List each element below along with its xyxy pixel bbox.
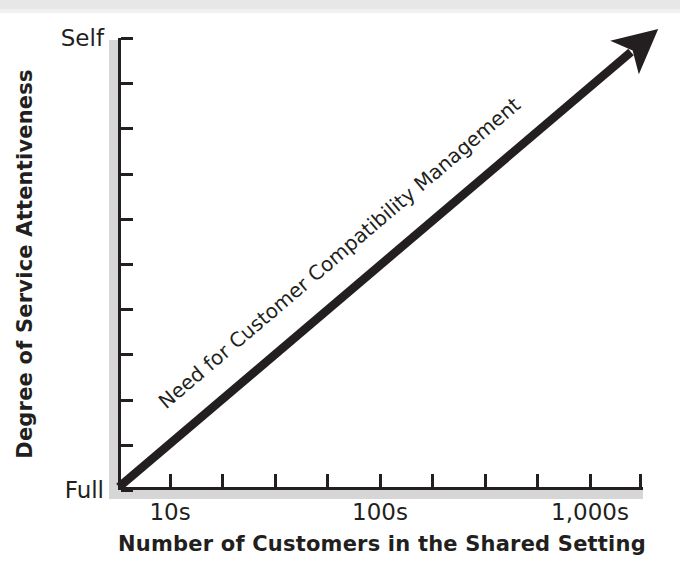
y-axis-tick (121, 353, 133, 356)
scan-artifact-band (0, 0, 680, 9)
x-axis-tick (169, 474, 172, 487)
y-axis-tick-label: Full (65, 479, 104, 502)
x-axis-tick-label: 100s (352, 501, 408, 524)
x-axis-tick (379, 474, 382, 487)
x-axis-line (118, 487, 643, 490)
y-axis-tick (121, 218, 133, 221)
x-axis-tick (536, 474, 539, 487)
chart-figure: Degree of Service Attentiveness Number o… (0, 0, 680, 585)
y-axis-tick (121, 127, 133, 130)
x-axis-tick (639, 474, 642, 487)
x-axis-tick (221, 474, 224, 487)
x-axis-shadow (109, 490, 643, 499)
y-axis-title: Degree of Service Attentiveness (6, 38, 44, 490)
x-axis-tick (274, 474, 277, 487)
y-axis-tick (121, 263, 133, 266)
plot-area: SelfFull 10s100s1,000s (118, 38, 645, 490)
x-axis-tick (589, 474, 592, 487)
x-axis-tick (431, 474, 434, 487)
x-axis-tick-label: 1,000s (551, 501, 629, 524)
y-axis-tick (121, 399, 133, 402)
y-axis-tick (121, 444, 133, 447)
y-axis-tick (121, 37, 133, 40)
y-axis-tick-label: Self (61, 27, 104, 50)
y-axis-shadow (109, 40, 118, 496)
y-axis-tick (121, 308, 133, 311)
x-axis-tick (484, 474, 487, 487)
x-axis-tick-label: 10s (149, 501, 190, 524)
scan-artifact-band-secondary (0, 9, 680, 13)
y-axis-tick (121, 82, 133, 85)
y-axis-tick (121, 489, 133, 492)
y-axis-tick (121, 173, 133, 176)
x-axis-title: Number of Customers in the Shared Settin… (118, 532, 645, 556)
x-axis-tick (326, 474, 329, 487)
